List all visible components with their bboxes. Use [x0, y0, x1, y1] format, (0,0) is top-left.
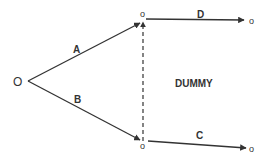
edge-label-c: C	[196, 130, 203, 141]
dummy-label: DUMMY	[175, 78, 213, 89]
edge-label-b: B	[74, 94, 81, 105]
node-end-bottom: o	[249, 144, 254, 154]
node-mid-bottom: o	[140, 141, 145, 151]
edge-label-a: A	[73, 44, 80, 55]
edge-b-arrow	[28, 81, 140, 140]
node-start: O	[13, 75, 22, 89]
edge-label-d: D	[197, 9, 204, 20]
network-diagram: O o o o o A B D C DUMMY	[0, 0, 265, 161]
edge-c-arrow	[148, 141, 246, 148]
node-mid-top: o	[140, 9, 145, 19]
node-end-top: o	[249, 16, 254, 26]
edge-d-arrow	[146, 19, 244, 20]
edge-a-arrow	[28, 23, 140, 81]
